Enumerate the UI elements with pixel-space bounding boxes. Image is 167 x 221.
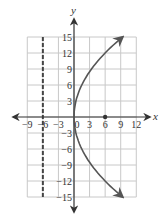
svg-text:12: 12 (62, 48, 72, 59)
svg-text:−3: −3 (61, 128, 72, 139)
x-axis-label: x (152, 110, 158, 122)
svg-text:12: 12 (131, 119, 141, 130)
svg-text:9: 9 (67, 64, 72, 75)
svg-text:6: 6 (103, 119, 108, 130)
svg-text:−9: −9 (22, 119, 33, 130)
svg-text:15: 15 (62, 32, 72, 43)
parabola-chart: −9−6−3036912 1512963−3−6−9−12−15 x y (0, 0, 167, 221)
svg-text:3: 3 (87, 119, 92, 130)
svg-text:−6: −6 (61, 144, 72, 155)
y-axis-label: y (70, 4, 76, 16)
axes (13, 19, 150, 212)
svg-text:9: 9 (118, 119, 123, 130)
svg-text:−9: −9 (61, 160, 72, 171)
svg-text:−15: −15 (56, 192, 72, 203)
svg-text:0: 0 (75, 119, 80, 130)
svg-text:3: 3 (67, 96, 72, 107)
svg-text:6: 6 (67, 80, 72, 91)
svg-text:−12: −12 (56, 176, 72, 187)
x-tick-labels: −9−6−3036912 (22, 119, 141, 130)
svg-text:−6: −6 (38, 119, 49, 130)
